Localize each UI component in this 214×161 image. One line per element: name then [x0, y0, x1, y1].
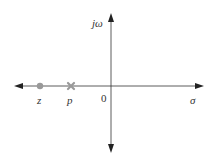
- sigma-axis-left-arrow-icon: [14, 83, 23, 89]
- zero-marker-icon: [37, 83, 43, 89]
- axes-graphic: [0, 0, 214, 161]
- jw-axis-down-arrow-icon: [108, 144, 114, 153]
- sigma-axis-right-arrow-icon: [195, 83, 204, 89]
- jw-axis-up-arrow-icon: [108, 13, 114, 22]
- sigma-axis-label: σ: [190, 95, 195, 106]
- jw-axis-label: jω: [92, 18, 103, 29]
- pole-label: p: [67, 95, 73, 106]
- pole-zero-diagram: jω σ 0 z p: [0, 0, 214, 161]
- origin-label: 0: [101, 93, 107, 104]
- zero-label: z: [37, 95, 41, 106]
